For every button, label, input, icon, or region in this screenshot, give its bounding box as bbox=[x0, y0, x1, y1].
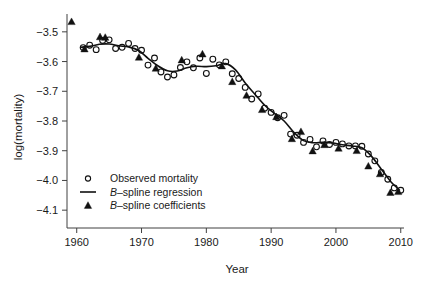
mortality-scatter-chart: 196019701980199020002010 −3.5−3.6−3.7−3.… bbox=[0, 0, 428, 294]
y-tick-label-−3.6: −3.6 bbox=[36, 56, 58, 68]
x-axis-title: Year bbox=[225, 263, 248, 275]
chart-background bbox=[0, 0, 428, 294]
legend-label-3: B–spline coefficients bbox=[110, 199, 206, 211]
y-tick-label-−3.7: −3.7 bbox=[36, 85, 58, 97]
y-tick-label-−3.5: −3.5 bbox=[36, 26, 58, 38]
x-tick-label-2000: 2000 bbox=[324, 236, 348, 248]
y-axis-title: log(mortality) bbox=[12, 94, 24, 161]
x-tick-label-1960: 1960 bbox=[64, 236, 88, 248]
y-tick-label-−3.8: −3.8 bbox=[36, 115, 58, 127]
legend-label-2: B–spline regression bbox=[110, 186, 202, 198]
x-tick-label-2010: 2010 bbox=[389, 236, 413, 248]
y-tick-label-−3.9: −3.9 bbox=[36, 145, 58, 157]
y-tick-label-−4.0: −4.0 bbox=[36, 174, 58, 186]
x-tick-label-1970: 1970 bbox=[129, 236, 153, 248]
y-tick-label-−4.1: −4.1 bbox=[36, 204, 58, 216]
x-tick-label-1980: 1980 bbox=[194, 236, 218, 248]
x-tick-label-1990: 1990 bbox=[259, 236, 283, 248]
legend-label-1: Observed mortality bbox=[110, 172, 199, 184]
chart-figure: 196019701980199020002010 −3.5−3.6−3.7−3.… bbox=[0, 0, 428, 294]
